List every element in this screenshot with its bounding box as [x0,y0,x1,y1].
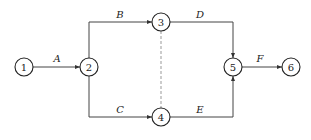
edge-d: D [170,9,233,58]
node-1-label: 1 [21,62,27,73]
edge-e: E [170,76,233,117]
edge-e-label: E [195,104,204,115]
node-4-label: 4 [158,112,164,123]
network-diagram: A B C D E F 1 2 3 4 5 [0,0,311,140]
edge-c: C [89,76,152,117]
node-2-label: 2 [86,62,92,73]
edge-b-label: B [115,9,123,20]
node-3: 3 [152,13,170,31]
node-1: 1 [15,58,33,76]
node-5: 5 [224,58,242,76]
node-6: 6 [282,58,300,76]
node-6-label: 6 [288,62,294,73]
edge-a: A [33,53,80,67]
edge-f-label: F [256,53,265,64]
node-3-label: 3 [158,17,164,28]
node-2: 2 [80,58,98,76]
node-4: 4 [152,108,170,126]
edge-a-label: A [52,53,60,64]
edge-b: B [89,9,152,58]
edge-f: F [242,53,282,67]
node-5-label: 5 [230,62,236,73]
edge-c-label: C [116,104,124,115]
edge-d-label: D [195,9,204,20]
